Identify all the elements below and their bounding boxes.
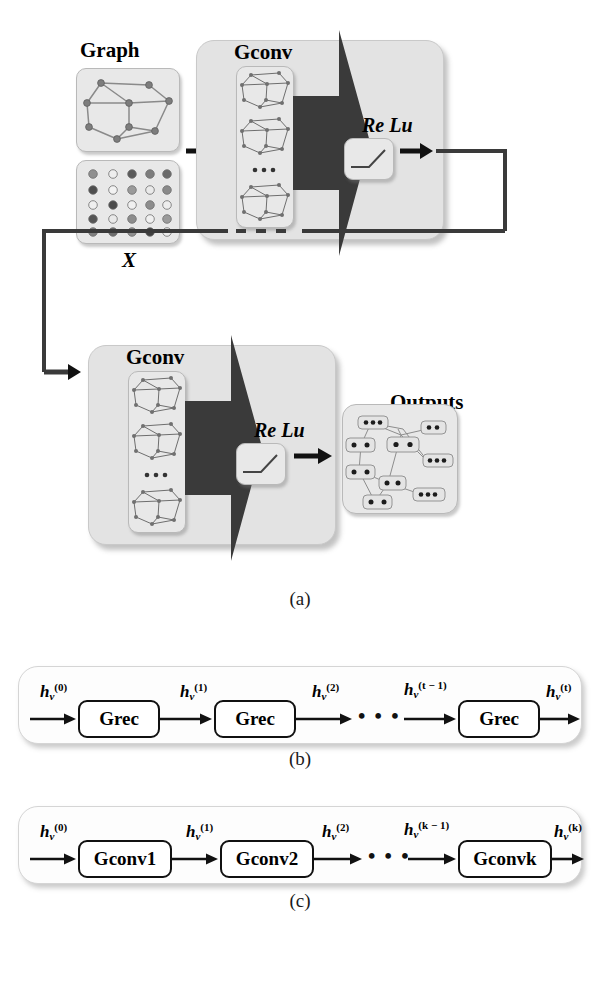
state-label-c-k: hv(k) [554, 822, 582, 842]
sup-2: (2) [326, 681, 339, 693]
outputs-card [342, 404, 458, 514]
proc-box-c-1[interactable]: Gconv1 [78, 840, 172, 878]
state-label-b-2: hv(2) [312, 682, 339, 702]
graph-label: Graph [80, 38, 140, 63]
gconv-stack-svg-2 [129, 372, 185, 532]
gconv-stage-2-title: Gconv [126, 345, 184, 370]
proc-box-b-2[interactable]: Grec [214, 700, 296, 738]
arrow-stage2-to-outputs [294, 445, 334, 467]
sup-t: (t) [560, 681, 571, 693]
ellipsis-c: • • • [368, 844, 411, 869]
arrow-b-1 [160, 710, 214, 728]
relu-label-2: Re Lu [254, 419, 305, 442]
arrow-b-3 [404, 710, 458, 728]
sup-k: (k) [568, 821, 581, 833]
state-label-b-1: hv(1) [180, 682, 207, 702]
ellipsis-b: • • • [358, 704, 401, 729]
arrow-b-out [540, 710, 582, 728]
graph-thumbnail-svg [77, 69, 179, 151]
proc-box-b-3[interactable]: Grec [458, 700, 540, 738]
arrow-c-1 [172, 850, 220, 868]
relu-card-1 [344, 138, 394, 180]
gconv-stage-1-title: Gconv [234, 40, 292, 65]
state-label-c-1: hv(1) [186, 822, 213, 842]
caption-a: (a) [0, 588, 600, 610]
state-label-b-0: hv(0) [40, 682, 67, 702]
arrow-c-0 [30, 850, 78, 868]
state-label-c-0: hv(0) [40, 822, 67, 842]
proc-box-b-1[interactable]: Grec [78, 700, 160, 738]
proc-box-c-2[interactable]: Gconv2 [220, 840, 314, 878]
sup-k-minus-1: (k − 1) [418, 819, 449, 831]
arrow-c-out [552, 850, 586, 868]
sup-2: (2) [336, 821, 349, 833]
sup-t-minus-1: (t − 1) [418, 679, 446, 691]
caption-b: (b) [0, 748, 600, 770]
sup-1: (1) [200, 821, 213, 833]
arrow-b-2 [296, 710, 354, 728]
state-label-c-km1: hv(k − 1) [404, 820, 449, 840]
state-label-b-tm1: hv(t − 1) [404, 680, 447, 700]
figure-root: Graph [0, 0, 600, 984]
sup-0: (0) [54, 681, 67, 693]
arrow-c-3 [408, 850, 458, 868]
gconv-stage-2-graph-stack [128, 371, 186, 533]
arrow-b-0 [30, 710, 78, 728]
relu-label-1: Re Lu [362, 114, 413, 137]
state-label-b-t: hv(t) [546, 682, 571, 702]
arrow-c-2 [314, 850, 364, 868]
outputs-graph-svg [343, 405, 457, 513]
proc-box-c-3[interactable]: Gconvk [458, 840, 552, 878]
relu-card-2 [236, 443, 286, 485]
sup-0: (0) [54, 821, 67, 833]
state-label-c-2: hv(2) [322, 822, 349, 842]
sup-1: (1) [194, 681, 207, 693]
caption-c: (c) [0, 890, 600, 912]
